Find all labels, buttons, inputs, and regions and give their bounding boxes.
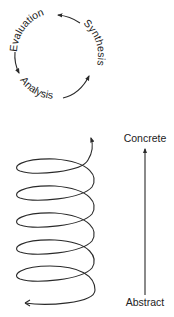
label-evaluation: Evaluation — [7, 6, 45, 53]
arrow-synthesis-to-evaluation — [58, 15, 80, 23]
abstraction-axis: Concrete Abstract — [124, 132, 167, 308]
arrow-analysis-to-synthesis — [63, 76, 89, 98]
label-analysis: Analysis — [18, 74, 53, 101]
cycle-diagram: Evaluation Synthesis Analysis — [7, 6, 108, 101]
arrow-evaluation-to-analysis — [15, 52, 19, 73]
spiral-diagram — [17, 138, 95, 306]
label-synthesis: Synthesis — [82, 17, 108, 67]
spiral-path — [17, 138, 95, 304]
label-concrete: Concrete — [124, 132, 167, 144]
diagram-canvas: Evaluation Synthesis Analysis Concrete A… — [0, 0, 174, 317]
label-abstract: Abstract — [126, 296, 165, 308]
